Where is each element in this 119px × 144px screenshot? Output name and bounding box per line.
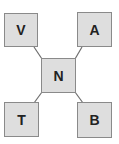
node-t: T: [4, 102, 39, 137]
node-a: A: [77, 12, 112, 47]
edge-n-a: [75, 47, 82, 59]
node-b: B: [77, 102, 112, 138]
node-b-label: B: [89, 112, 99, 128]
node-a-label: A: [89, 22, 99, 38]
node-n-label: N: [53, 68, 63, 84]
node-v-label: V: [16, 22, 25, 38]
star-diagram: V A N T B: [0, 0, 119, 144]
node-n-center: N: [41, 58, 76, 93]
node-v: V: [4, 13, 38, 47]
node-t-label: T: [17, 112, 26, 128]
